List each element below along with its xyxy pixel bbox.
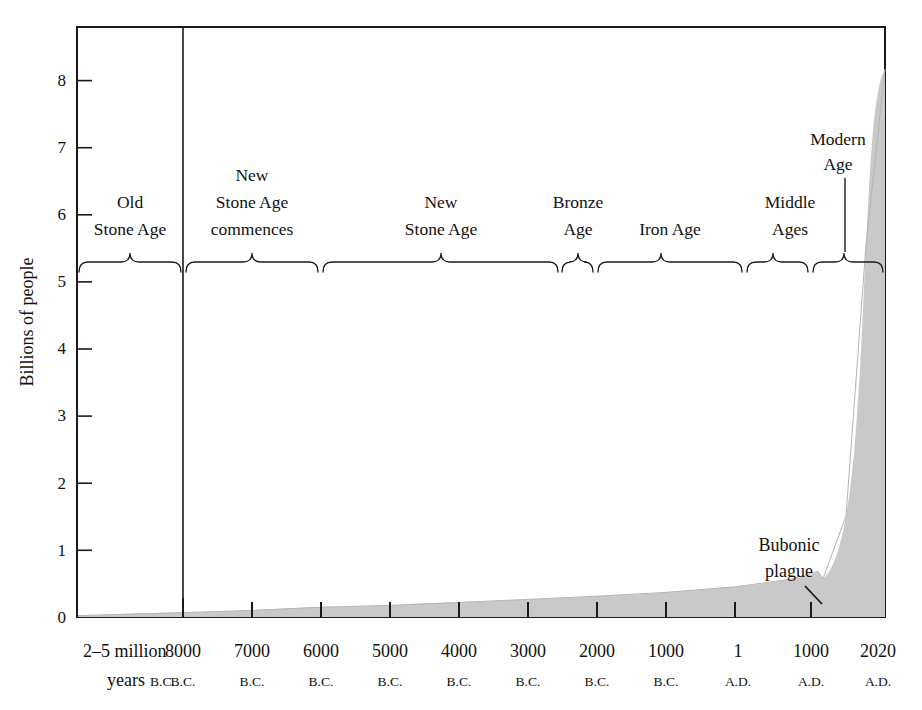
era-new-stone-commences-line1: New bbox=[235, 165, 268, 185]
x-label-9-minor: A.D. bbox=[725, 674, 751, 689]
x-label-0-line2: years bbox=[107, 670, 145, 690]
chart-canvas: 8 7 6 5 4 3 2 1 0 Billions of people bbox=[0, 0, 922, 710]
y-axis-title: Billions of people bbox=[17, 258, 37, 387]
era-old-stone-age-line2: Stone Age bbox=[94, 219, 167, 239]
x-label-8-major: 1000 bbox=[648, 641, 684, 661]
x-label-5-major: 4000 bbox=[441, 641, 477, 661]
y-tick-4: 4 bbox=[58, 339, 67, 358]
x-label-10-major: 1000 bbox=[793, 641, 829, 661]
y-tick-2: 2 bbox=[58, 474, 67, 493]
plot-frame bbox=[77, 27, 885, 617]
era-old-stone-age-line1: Old bbox=[117, 192, 144, 212]
annotation-plague-line2: plague bbox=[765, 561, 813, 581]
era-bronze-age-line2: Age bbox=[563, 219, 592, 239]
x-axis-tick-labels: 2–5 million years B.C. 8000 B.C. 7000 B.… bbox=[83, 641, 896, 690]
x-label-6-major: 3000 bbox=[510, 641, 546, 661]
x-label-11-minor: A.D. bbox=[865, 674, 891, 689]
era-new-stone-commences-line2: Stone Age bbox=[216, 192, 289, 212]
x-label-10-minor: A.D. bbox=[798, 674, 824, 689]
x-label-1-minor: B.C. bbox=[171, 674, 196, 689]
x-label-5-minor: B.C. bbox=[447, 674, 472, 689]
x-label-2-major: 7000 bbox=[234, 641, 270, 661]
x-label-11-major: 2020 bbox=[860, 641, 896, 661]
era-new-stone-commences-line3: commences bbox=[211, 219, 294, 239]
x-label-9-major: 1 bbox=[734, 641, 743, 661]
era-new-stone-age-line1: New bbox=[424, 192, 457, 212]
y-axis-tick-labels: 8 7 6 5 4 3 2 1 0 bbox=[58, 71, 67, 627]
x-label-6-minor: B.C. bbox=[516, 674, 541, 689]
x-label-3-minor: B.C. bbox=[309, 674, 334, 689]
x-label-4-minor: B.C. bbox=[378, 674, 403, 689]
x-label-8-minor: B.C. bbox=[654, 674, 679, 689]
x-label-4-major: 5000 bbox=[372, 641, 408, 661]
y-tick-1: 1 bbox=[58, 541, 67, 560]
era-bronze-age-line1: Bronze bbox=[553, 192, 604, 212]
era-middle-ages-line2: Ages bbox=[772, 219, 808, 239]
x-label-7-major: 2000 bbox=[579, 641, 615, 661]
x-label-0-major: 2–5 million bbox=[83, 641, 167, 661]
era-iron-age-line1: Iron Age bbox=[639, 219, 701, 239]
population-history-chart: 8 7 6 5 4 3 2 1 0 Billions of people bbox=[0, 0, 922, 710]
y-tick-3: 3 bbox=[58, 406, 67, 425]
y-tick-8: 8 bbox=[58, 71, 67, 90]
x-label-3-major: 6000 bbox=[303, 641, 339, 661]
y-tick-5: 5 bbox=[58, 272, 67, 291]
era-new-stone-age-line2: Stone Age bbox=[405, 219, 478, 239]
x-label-1-major: 8000 bbox=[165, 641, 201, 661]
y-tick-0: 0 bbox=[58, 608, 67, 627]
era-modern-age-line1: Modern bbox=[810, 129, 866, 149]
era-middle-ages-line1: Middle bbox=[765, 192, 816, 212]
annotation-plague-line1: Bubonic bbox=[759, 535, 820, 555]
y-tick-7: 7 bbox=[58, 138, 67, 157]
era-modern-age-line2: Age bbox=[823, 154, 852, 174]
x-label-2-minor: B.C. bbox=[240, 674, 265, 689]
y-tick-6: 6 bbox=[58, 205, 67, 224]
x-label-7-minor: B.C. bbox=[585, 674, 610, 689]
